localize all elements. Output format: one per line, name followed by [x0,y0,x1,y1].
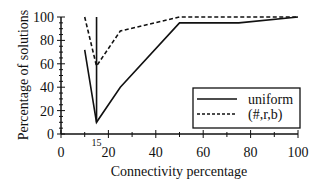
x-annotation-15: 15 [92,137,102,148]
line-chart: 02040608010002040608010015 uniform(#,r,b… [0,0,323,182]
y-tick-label: 0 [47,127,54,142]
legend-label-hash-r-b: (#,r,b) [248,107,283,123]
x-axis-label: Connectivity percentage [111,164,247,179]
y-tick-label: 60 [40,57,54,72]
x-tick-label: 0 [58,145,65,160]
y-tick-label: 80 [40,33,54,48]
x-tick-label: 100 [288,145,309,160]
x-tick-label: 20 [101,145,115,160]
y-tick-label: 20 [40,104,54,119]
legend: uniform(#,r,b) [193,88,300,128]
y-axis-label: Percentage of solutions [16,10,31,141]
y-tick-label: 40 [40,80,54,95]
x-tick-label: 60 [196,145,210,160]
x-tick-label: 40 [149,145,163,160]
x-tick-label: 80 [244,145,258,160]
series-line-hash-r-b [85,17,298,66]
legend-label-uniform: uniform [248,92,293,107]
y-tick-label: 100 [33,10,54,25]
